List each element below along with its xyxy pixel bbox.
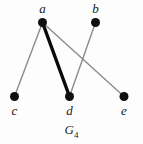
vertex-label-d: d — [66, 104, 73, 117]
vertex-label-b: b — [92, 2, 99, 15]
edge-ad — [43, 23, 70, 97]
edge-layer — [15, 23, 125, 97]
edge-bd — [70, 23, 96, 97]
caption-base: G — [65, 122, 74, 137]
vertex-e — [120, 92, 129, 101]
vertex-a — [38, 18, 47, 27]
vertex-b — [91, 18, 100, 27]
figure-caption: G4 — [0, 122, 143, 140]
edge-ac — [15, 23, 43, 97]
graph-figure: abcde G4 — [0, 0, 143, 144]
vertex-d — [65, 92, 74, 101]
vertex-label-e: e — [121, 104, 127, 117]
vertex-c — [10, 92, 19, 101]
vertex-label-a: a — [39, 2, 46, 15]
vertex-label-c: c — [12, 104, 18, 117]
caption-subscript: 4 — [74, 130, 79, 140]
